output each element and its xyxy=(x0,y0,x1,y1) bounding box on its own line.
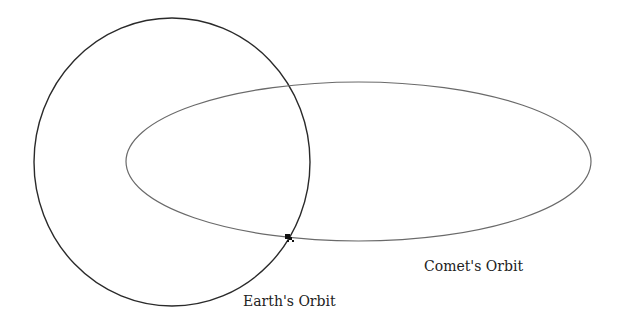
comet-orbit-label: Comet's Orbit xyxy=(424,258,523,274)
earth-orbit-label: Earth's Orbit xyxy=(243,293,336,309)
earth-orbit-circle xyxy=(34,18,310,306)
comet-orbit-ellipse xyxy=(126,82,591,241)
orbit-diagram xyxy=(0,0,623,321)
